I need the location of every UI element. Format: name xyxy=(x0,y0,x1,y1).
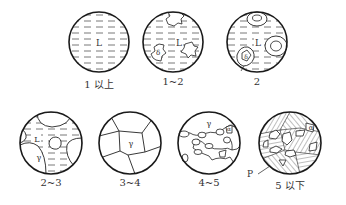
svg-text:α: α xyxy=(309,124,314,132)
svg-text:L: L xyxy=(176,38,182,48)
panel-delta-peritectic: δ L xyxy=(227,12,287,72)
panel-label-4: 2~3 xyxy=(40,177,61,188)
svg-text:L: L xyxy=(96,38,102,48)
panel-ferrite-pearlite: α xyxy=(258,112,321,174)
panel-label-5: 3~4 xyxy=(119,177,140,188)
pearlite-label: P xyxy=(247,169,253,179)
svg-text:δ: δ xyxy=(244,53,248,60)
svg-text:α: α xyxy=(227,125,231,132)
diagram-canvas: L δ L δ L L xyxy=(0,0,346,205)
panel-label-2: 1~2 xyxy=(162,76,183,87)
panel-label-7: 5 以下 xyxy=(275,177,305,192)
panel-liquid-delta-nucleation: δ L xyxy=(143,12,203,72)
svg-text:γ: γ xyxy=(37,153,42,162)
pearlite-leader-line xyxy=(258,166,270,174)
panel-gamma-grains: γ xyxy=(99,112,162,174)
panel-label-6: 4~5 xyxy=(198,177,219,188)
panel-liquid: L xyxy=(69,12,129,72)
panel-liquid-gamma: L γ xyxy=(20,112,82,174)
panel-label-1: 1 以上 xyxy=(84,76,114,91)
svg-text:γ: γ xyxy=(207,119,212,128)
svg-text:L: L xyxy=(255,38,261,48)
svg-text:L: L xyxy=(34,135,40,144)
panel-gamma-alpha-boundary: γ α xyxy=(178,112,240,174)
svg-text:γ: γ xyxy=(129,139,134,148)
panel-label-3: 2 xyxy=(254,76,260,87)
svg-text:δ: δ xyxy=(156,49,160,57)
